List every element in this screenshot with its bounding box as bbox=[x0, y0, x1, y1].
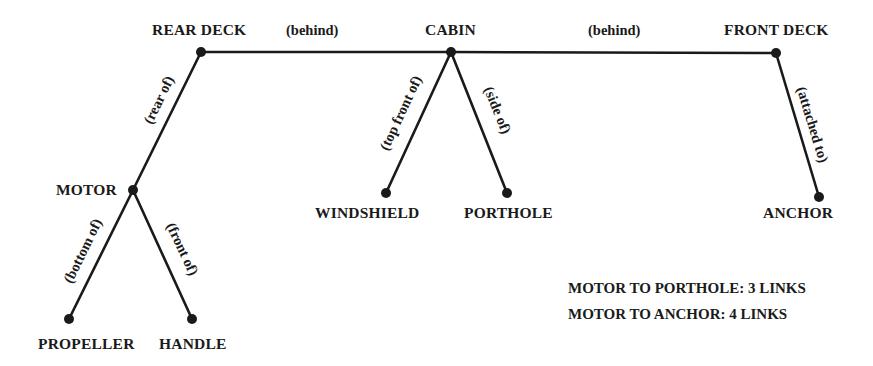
node-label-windshield: WINDSHIELD bbox=[315, 204, 420, 221]
edge-label-cabin-porthole: (side of) bbox=[480, 84, 514, 136]
node-label-rear-deck: REAR DECK bbox=[152, 21, 246, 38]
edge-label-cabin-front-deck: (behind) bbox=[588, 22, 641, 39]
node-label-propeller: PROPELLER bbox=[38, 335, 135, 352]
edge-label-cabin-windshield: (top front of) bbox=[376, 73, 425, 153]
node-dot-porthole bbox=[502, 188, 512, 198]
node-dot-cabin bbox=[446, 47, 456, 57]
node-dot-motor bbox=[128, 185, 138, 195]
note-motor-to-anchor: MOTOR TO ANCHOR: 4 LINKS bbox=[568, 306, 787, 322]
node-dot-handle bbox=[187, 314, 197, 324]
node-dot-propeller bbox=[64, 314, 74, 324]
node-dot-anchor bbox=[814, 192, 824, 202]
node-labels: REAR DECK CABIN FRONT DECK MOTOR WINDSHI… bbox=[38, 21, 834, 352]
edge-label-motor-propeller: (bottom of) bbox=[60, 216, 106, 286]
edge-label-rear-deck-motor: (rear of) bbox=[140, 73, 178, 127]
edge-label-rear-deck-cabin: (behind) bbox=[286, 22, 339, 39]
node-dot-windshield bbox=[381, 188, 391, 198]
node-label-motor: MOTOR bbox=[56, 181, 118, 198]
node-label-porthole: PORTHOLE bbox=[464, 204, 553, 221]
node-dot-rear-deck bbox=[196, 47, 206, 57]
semantic-network-diagram: REAR DECK CABIN FRONT DECK MOTOR WINDSHI… bbox=[0, 0, 873, 366]
node-label-anchor: ANCHOR bbox=[763, 204, 834, 221]
node-label-front-deck: FRONT DECK bbox=[724, 21, 829, 38]
link-count-notes: MOTOR TO PORTHOLE: 3 LINKS MOTOR TO ANCH… bbox=[568, 280, 806, 322]
node-dot-front-deck bbox=[771, 48, 781, 58]
note-motor-to-porthole: MOTOR TO PORTHOLE: 3 LINKS bbox=[568, 280, 806, 296]
node-label-handle: HANDLE bbox=[159, 335, 227, 352]
node-label-cabin: CABIN bbox=[425, 21, 476, 38]
edges bbox=[69, 52, 819, 319]
edge-cabin-front-deck bbox=[451, 52, 776, 53]
